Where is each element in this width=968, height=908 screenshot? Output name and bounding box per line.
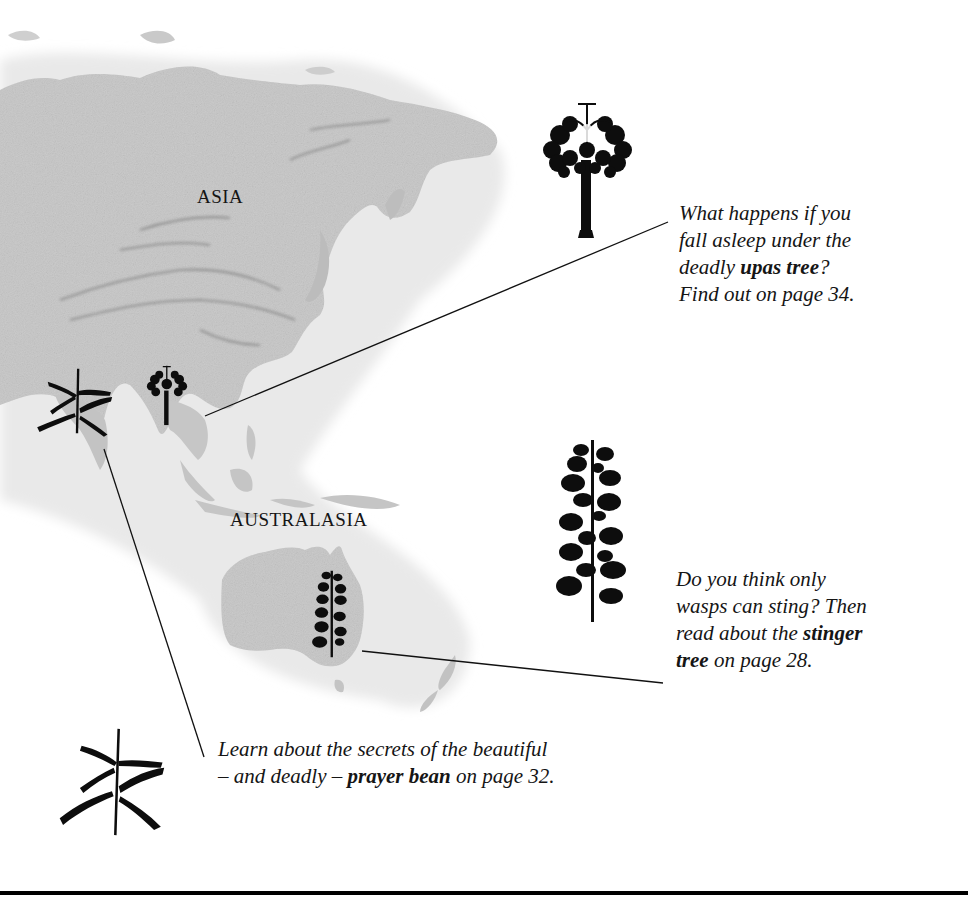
upas-tree-map-marker bbox=[146, 360, 188, 430]
text: deadly bbox=[679, 255, 740, 279]
callout-upas-line1: What happens if you bbox=[679, 200, 855, 227]
text: read about the bbox=[676, 621, 803, 645]
stinger-tree-map-marker bbox=[313, 569, 351, 659]
upas-tree-link: upas tree bbox=[740, 255, 819, 279]
upas-tree-icon bbox=[540, 100, 635, 240]
callout-stinger-line3: read about the stinger bbox=[676, 620, 867, 647]
callout-stinger-tree: Do you think only wasps can sting? Then … bbox=[676, 566, 867, 674]
region-label-australasia: AUSTRALASIA bbox=[230, 509, 367, 531]
callout-upas-line4: Find out on page 34. bbox=[679, 281, 855, 308]
region-label-asia: ASIA bbox=[197, 186, 243, 208]
callout-upas-line3: deadly upas tree? bbox=[679, 254, 855, 281]
callout-upas-tree: What happens if you fall asleep under th… bbox=[679, 200, 855, 308]
stinger-tree-link-cont: tree bbox=[676, 648, 709, 672]
callout-stinger-line1: Do you think only bbox=[676, 566, 867, 593]
text: on page 32. bbox=[451, 764, 555, 788]
callout-prayer-line2: – and deadly – prayer bean on page 32. bbox=[218, 763, 555, 790]
stinger-tree-link: stinger bbox=[803, 621, 863, 645]
text: on page 28. bbox=[709, 648, 813, 672]
callout-prayer-line1: Learn about the secrets of the beautiful bbox=[218, 736, 555, 763]
callout-stinger-line4: tree on page 28. bbox=[676, 647, 867, 674]
prayer-bean-map-marker bbox=[36, 360, 118, 442]
text: ? bbox=[819, 255, 830, 279]
text: – and deadly – bbox=[218, 764, 347, 788]
callout-stinger-line2: wasps can sting? Then bbox=[676, 593, 867, 620]
prayer-bean-link: prayer bean bbox=[347, 764, 450, 788]
stinger-tree-icon bbox=[553, 440, 633, 622]
page-bottom-rule bbox=[0, 891, 968, 895]
callout-upas-line2: fall asleep under the bbox=[679, 227, 855, 254]
callout-prayer-bean: Learn about the secrets of the beautiful… bbox=[218, 736, 555, 790]
prayer-bean-icon bbox=[58, 726, 176, 838]
